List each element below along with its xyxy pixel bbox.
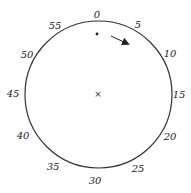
dial-label-40: 40	[16, 130, 30, 141]
dial-label-35: 35	[47, 161, 60, 172]
center-x-marker: ×	[94, 89, 102, 99]
dial-label-0: 0	[94, 9, 101, 20]
dial-label-25: 25	[131, 163, 145, 174]
dial-label-30: 30	[89, 175, 102, 186]
dial-label-50: 50	[21, 49, 34, 60]
clock-dial-diagram: × 0510152025303540455055	[0, 0, 191, 193]
dial-label-45: 45	[6, 88, 20, 99]
dial-label-20: 20	[163, 131, 177, 142]
clockwise-arrow-icon	[111, 36, 128, 44]
dial-label-5: 5	[135, 19, 141, 30]
dial-label-10: 10	[164, 48, 177, 59]
dial-label-15: 15	[173, 89, 186, 100]
start-dot	[96, 33, 99, 36]
dial-label-55: 55	[49, 20, 62, 31]
